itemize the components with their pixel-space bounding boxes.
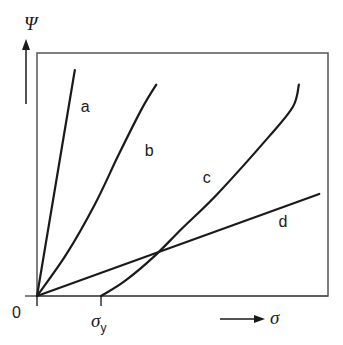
sigma-y-subscript: y xyxy=(100,321,106,335)
curves xyxy=(37,70,319,296)
curve-a xyxy=(37,70,75,296)
sigma-y-label: σy xyxy=(91,310,106,335)
curve-label-d: d xyxy=(279,213,288,230)
curve-label-c: c xyxy=(203,169,211,186)
diagram: abcd Ψ σ 0 σy xyxy=(0,0,343,345)
x-axis-arrow xyxy=(220,315,265,323)
origin-label: 0 xyxy=(12,304,21,321)
y-axis-label: Ψ xyxy=(24,13,39,34)
plot-frame xyxy=(37,53,328,296)
curve-labels: abcd xyxy=(81,98,288,229)
curve-label-a: a xyxy=(81,98,90,115)
y-axis-arrow xyxy=(22,39,30,104)
x-axis-label: σ xyxy=(270,307,280,328)
curve-c xyxy=(101,85,299,296)
curve-label-b: b xyxy=(145,142,154,159)
curve-d xyxy=(37,194,319,296)
